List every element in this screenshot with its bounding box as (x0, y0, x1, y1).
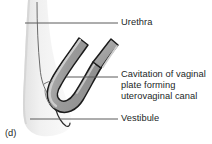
label-cavitation-line3: uterovaginal canal (121, 91, 197, 101)
panel-letter: (d) (5, 128, 16, 138)
label-cavitation-line1: Cavitation of vaginal (121, 69, 206, 79)
label-vestibule: Vestibule (121, 113, 159, 124)
label-cavitation: Cavitation of vaginalplate forminguterov… (121, 69, 206, 102)
label-urethra: Urethra (121, 17, 152, 28)
embryology-figure-panel-d: Urethra Cavitation of vaginalplate formi… (0, 0, 212, 144)
label-cavitation-line2: plate forming (121, 80, 175, 90)
